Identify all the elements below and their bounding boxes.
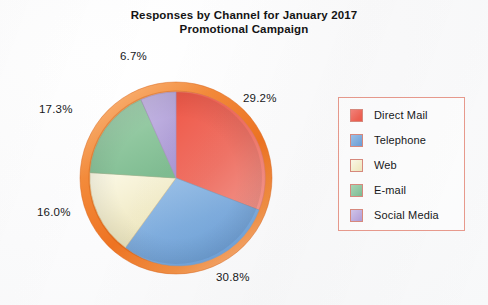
pie-inner-shading (90, 92, 262, 264)
legend-swatch-direct-mail (350, 109, 363, 122)
legend-label-telephone: Telephone (374, 134, 426, 146)
pie-label-telephone: 30.8% (216, 271, 250, 283)
chart-title-line-2: Promotional Campaign (0, 22, 488, 36)
legend-swatch-telephone (350, 134, 363, 147)
legend-label-email: E-mail (374, 184, 406, 196)
legend-item-web[interactable]: Web (350, 158, 397, 172)
legend-item-email[interactable]: E-mail (350, 183, 406, 197)
legend-swatch-social-media (350, 209, 363, 222)
legend-item-social-media[interactable]: Social Media (350, 208, 439, 222)
legend-item-direct-mail[interactable]: Direct Mail (350, 108, 428, 122)
chart-legend: Direct Mail Telephone Web E-mail Social … (338, 97, 465, 231)
pie-label-direct-mail: 29.2% (243, 92, 277, 104)
chart-title-line-1: Responses by Channel for January 2017 (131, 9, 358, 21)
legend-label-direct-mail: Direct Mail (374, 109, 428, 121)
chart-page: Responses by Channel for January 2017 Pr… (0, 0, 488, 305)
legend-label-social-media: Social Media (374, 209, 439, 221)
pie-chart (76, 78, 276, 278)
legend-label-web: Web (374, 159, 397, 171)
legend-swatch-email (350, 184, 363, 197)
pie-label-email: 17.3% (39, 103, 73, 115)
legend-swatch-web (350, 159, 363, 172)
legend-item-telephone[interactable]: Telephone (350, 133, 426, 147)
page-title: Responses by Channel for January 2017 Pr… (0, 8, 488, 36)
pie-chart-svg (76, 78, 276, 278)
pie-label-social-media: 6.7% (120, 50, 147, 62)
pie-label-web: 16.0% (37, 206, 71, 218)
